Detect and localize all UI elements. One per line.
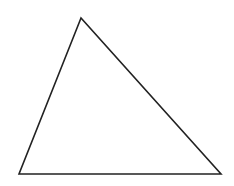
triangle-figure <box>0 0 234 186</box>
diagram-canvas <box>0 0 234 186</box>
triangle-shape <box>19 18 221 174</box>
